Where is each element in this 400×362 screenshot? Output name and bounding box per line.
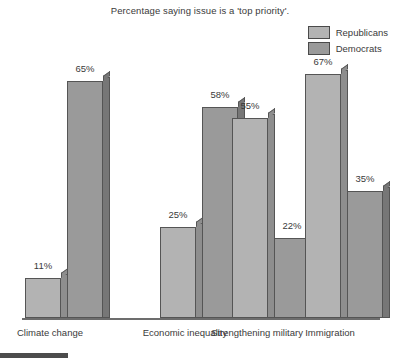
chart-screenshot: Percentage saying issue is a 'top priori…	[0, 0, 400, 362]
category-label-0: Climate change	[3, 327, 97, 339]
plot-area: 11%65%25%58%55%22%67%35% Climate changeE…	[0, 0, 400, 362]
category-label-3: Immigration	[283, 327, 377, 339]
bar-republicans-2: 55%	[232, 112, 268, 318]
bar-front-face	[160, 227, 196, 318]
bar-front-face	[305, 74, 341, 318]
bar-front-face	[347, 191, 383, 318]
bar-front-face	[25, 278, 61, 318]
bar-side-face	[383, 187, 390, 318]
scan-artifact-strip	[0, 353, 68, 358]
bar-value-label: 58%	[202, 89, 238, 100]
bar-republicans-1: 25%	[160, 221, 196, 318]
bar-republicans-0: 11%	[25, 272, 61, 318]
bar-value-label: 35%	[347, 173, 383, 184]
bar-side-face	[103, 77, 110, 318]
bar-democrats-3: 35%	[347, 185, 383, 318]
bar-front-face	[67, 81, 103, 318]
bar-republicans-3: 67%	[305, 68, 341, 318]
bar-value-label: 67%	[305, 56, 341, 67]
bar-value-label: 11%	[25, 260, 61, 271]
bar-value-label: 55%	[232, 100, 268, 111]
bar-democrats-0: 65%	[67, 75, 103, 318]
bar-value-label: 25%	[160, 209, 196, 220]
bar-front-face	[232, 118, 268, 318]
bar-value-label: 65%	[67, 63, 103, 74]
x-axis-baseline	[22, 318, 380, 320]
